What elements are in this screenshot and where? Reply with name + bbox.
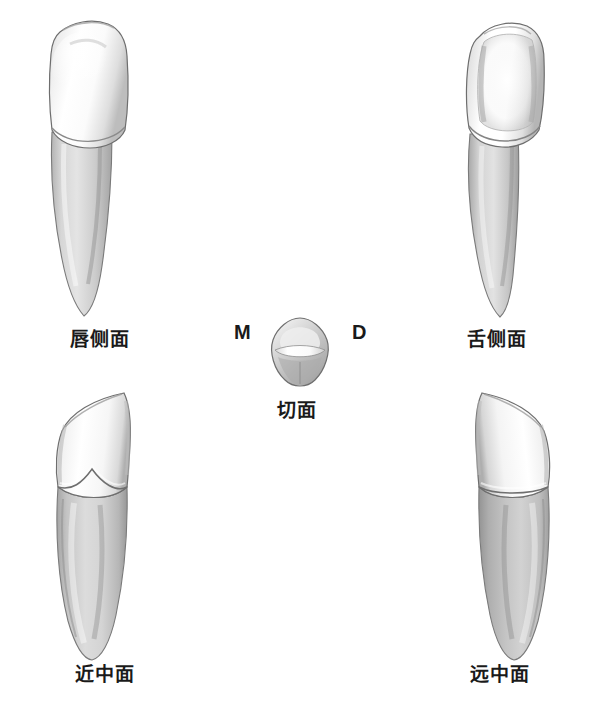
view-label-labial: 唇侧面: [0, 330, 200, 349]
orientation-marker-distal: D: [352, 322, 366, 342]
tooth-view-distal: [438, 391, 568, 666]
view-label-incisal: 切面: [247, 401, 347, 420]
tooth-view-labial: [30, 14, 160, 324]
view-label-mesial: 近中面: [0, 665, 210, 684]
orientation-marker-mesial: M: [234, 322, 251, 342]
tooth-view-mesial: [38, 391, 168, 666]
tooth-view-incisal: [265, 312, 335, 394]
tooth-view-lingual: [432, 14, 567, 324]
view-label-lingual: 舌侧面: [402, 330, 592, 349]
tooth-anatomy-figure: 唇侧面: [0, 0, 597, 721]
view-label-distal: 远中面: [400, 665, 597, 684]
